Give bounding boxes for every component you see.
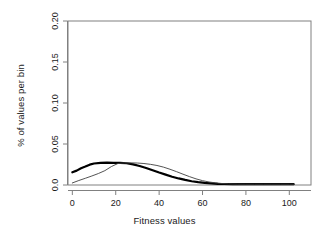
y-tick-label-2: 0.10 — [50, 94, 60, 112]
y-tick-label-0: 0.0 — [50, 179, 60, 192]
x-tick-label-1: 20 — [111, 198, 121, 208]
y-axis-title: % of values per bin — [15, 41, 26, 171]
plot-panel — [68, 21, 311, 185]
y-tick-label-3: 0.15 — [50, 53, 60, 71]
x-axis-ticks — [72, 191, 289, 196]
x-tick-label-5: 100 — [282, 198, 297, 208]
x-tick-label-2: 40 — [154, 198, 164, 208]
y-axis-ticks — [63, 21, 68, 185]
x-tick-label-0: 0 — [70, 198, 75, 208]
x-axis-tick-labels: 020406080100 — [70, 198, 297, 208]
x-tick-label-3: 60 — [198, 198, 208, 208]
y-axis-tick-labels: 0.00.050.100.150.20 — [50, 12, 60, 191]
chart-canvas: 0.00.050.100.150.20 020406080100 — [0, 0, 329, 242]
y-tick-label-1: 0.05 — [50, 135, 60, 153]
x-tick-label-4: 80 — [241, 198, 251, 208]
x-axis-title: Fitness values — [0, 215, 329, 226]
y-tick-label-4: 0.20 — [50, 12, 60, 30]
chart-figure: 0.00.050.100.150.20 020406080100 Fitness… — [0, 0, 329, 242]
